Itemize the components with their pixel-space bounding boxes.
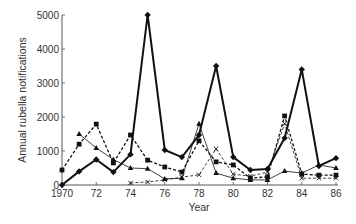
triangle-marker [282,168,288,173]
square-marker [231,163,236,168]
x-tick-label: 74 [125,188,137,199]
chart-svg: 1970727476788082848601000200030004000500… [0,0,356,224]
y-tick-label: 3000 [37,78,60,89]
x-tick-label: 76 [159,188,171,199]
square-marker [214,159,219,164]
diamond-marker [144,12,150,18]
diamond-marker [162,147,168,153]
x-tick-label: 72 [91,188,103,199]
square-marker [128,133,133,138]
x-tick-label: 84 [296,188,308,199]
square-marker [77,142,82,147]
cross-marker [282,122,286,126]
diamond-marker [299,66,305,72]
series-diamond-solid-thick [59,12,339,188]
square-marker [282,114,287,119]
triangle-marker [128,165,134,170]
square-marker [94,122,99,127]
square-marker [162,165,167,170]
rubella-line-chart: 1970727476788082848601000200030004000500… [0,0,356,224]
y-tick-label: 0 [53,180,59,191]
diamond-marker [333,155,339,161]
square-marker [60,168,65,173]
x-tick-label: 82 [262,188,274,199]
series-line [79,124,336,180]
cross-marker [214,147,218,151]
y-tick-label: 2000 [37,112,60,123]
square-marker [197,138,202,143]
square-marker [145,158,150,163]
series-group [59,12,339,188]
axes: 1970727476788082848601000200030004000500… [37,10,342,200]
x-tick-label: 80 [228,188,240,199]
y-tick-label: 5000 [37,10,60,21]
x-tick-label: 86 [330,188,342,199]
diamond-marker [213,63,219,69]
triangle-marker [213,170,219,175]
triangle-marker [93,145,99,150]
triangle-marker [145,166,151,171]
y-tick-label: 1000 [37,146,60,157]
triangle-marker [76,131,82,136]
y-tick-label: 4000 [37,44,60,55]
x-axis-label: Year [188,201,210,213]
y-axis-label: Annual rubella notifications [16,37,28,163]
x-tick-label: 78 [193,188,205,199]
series-line [62,15,336,185]
